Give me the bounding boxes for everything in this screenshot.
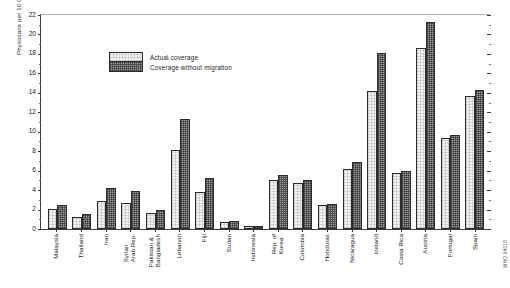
bar-group bbox=[94, 15, 119, 229]
bar-coverage-without-migration bbox=[254, 226, 264, 229]
x-tick-line bbox=[302, 229, 303, 232]
x-axis-label-text: Honduras bbox=[324, 234, 331, 261]
plot-area: Physicians per 10 000 population 0246810… bbox=[40, 14, 490, 230]
bar-group bbox=[463, 15, 488, 229]
y-tick-label: 20 bbox=[20, 30, 36, 37]
x-tick-line bbox=[204, 229, 205, 232]
bar-group bbox=[217, 15, 242, 229]
x-axis-label: Pakistan &Bangladesh bbox=[142, 232, 167, 288]
x-axis-label-text: Spain bbox=[471, 234, 478, 250]
x-tick-line bbox=[155, 229, 156, 232]
x-axis-label-text: Portugal bbox=[447, 234, 454, 258]
x-axis-label-text: Costa Rica bbox=[398, 234, 405, 265]
x-axis-label: Fiji bbox=[192, 232, 217, 288]
bar-group bbox=[45, 15, 70, 229]
y-tick-label: 16 bbox=[20, 69, 36, 76]
x-axis-label: Rep. ofKorea bbox=[265, 232, 290, 288]
bar-actual-coverage bbox=[318, 205, 328, 229]
y-tick-label: 18 bbox=[20, 49, 36, 56]
x-tick-line bbox=[179, 229, 180, 232]
x-tick-line bbox=[425, 229, 426, 232]
x-axis-label: SyrianArab Rep. bbox=[118, 232, 143, 288]
bar-group bbox=[70, 15, 95, 229]
bar-group bbox=[389, 15, 414, 229]
x-axis-labels: MalaysiaThailandIranSyrianArab Rep.Pakis… bbox=[40, 232, 490, 288]
chart-figure: Physicians per 10 000 population 0246810… bbox=[0, 0, 510, 288]
y-tick-label: 2 bbox=[20, 205, 36, 212]
x-axis-label: Spain bbox=[462, 232, 487, 288]
x-tick-line bbox=[327, 229, 328, 232]
bar-coverage-without-migration bbox=[352, 162, 362, 229]
bar-actual-coverage bbox=[269, 180, 279, 229]
x-tick-line bbox=[278, 229, 279, 232]
bar-actual-coverage bbox=[293, 183, 303, 229]
x-tick-line bbox=[253, 229, 254, 232]
bar-coverage-without-migration bbox=[450, 135, 460, 229]
x-axis-label-text: Sudan bbox=[225, 234, 232, 252]
x-axis-label-text: Colombia bbox=[299, 234, 306, 261]
x-tick-line bbox=[56, 229, 57, 232]
x-tick-line bbox=[130, 229, 131, 232]
x-axis-label: Thailand bbox=[69, 232, 94, 288]
bar-actual-coverage bbox=[97, 201, 107, 229]
bar-coverage-without-migration bbox=[327, 204, 337, 229]
bar-group bbox=[364, 15, 389, 229]
bar-coverage-without-migration bbox=[82, 214, 92, 229]
x-tick-line bbox=[450, 229, 451, 232]
x-axis-label: Nicaragua bbox=[339, 232, 364, 288]
x-axis-label-text: SyrianArab Rep. bbox=[124, 234, 137, 262]
bar-group bbox=[315, 15, 340, 229]
bar-series-container bbox=[41, 15, 490, 229]
x-axis-label-text: Indonesia bbox=[250, 234, 257, 261]
bar-actual-coverage bbox=[220, 222, 230, 229]
x-tick-line bbox=[401, 229, 402, 232]
x-axis-label: Honduras bbox=[315, 232, 340, 288]
bar-group bbox=[119, 15, 144, 229]
bar-actual-coverage bbox=[465, 96, 475, 229]
scan-header-strip bbox=[0, 0, 510, 9]
bar-coverage-without-migration bbox=[426, 22, 436, 229]
bar-group bbox=[242, 15, 267, 229]
x-axis-label-text: Iceland bbox=[373, 234, 380, 254]
y-tick-label: 4 bbox=[20, 186, 36, 193]
x-axis-label-text: Pakistan &Bangladesh bbox=[148, 234, 161, 267]
bar-actual-coverage bbox=[195, 192, 205, 229]
bar-actual-coverage bbox=[441, 138, 451, 229]
legend-swatch-actual-icon bbox=[109, 52, 143, 62]
x-axis-label: Malaysia bbox=[44, 232, 69, 288]
right-tick-line bbox=[487, 229, 490, 230]
x-tick-line bbox=[106, 229, 107, 232]
bar-coverage-without-migration bbox=[475, 90, 485, 229]
x-axis-label-text: Austria bbox=[422, 234, 429, 254]
x-axis-label: Indonesia bbox=[241, 232, 266, 288]
bar-group bbox=[340, 15, 365, 229]
bar-actual-coverage bbox=[48, 209, 58, 229]
bar-coverage-without-migration bbox=[106, 188, 116, 229]
x-axis-label-text: Nicaragua bbox=[348, 234, 355, 263]
x-axis-label-text: Fiji bbox=[201, 234, 208, 242]
x-axis-label-text: Thailand bbox=[78, 234, 85, 258]
bar-actual-coverage bbox=[146, 213, 156, 229]
y-axis-title: Physicians per 10 000 population bbox=[15, 0, 22, 55]
bar-group bbox=[192, 15, 217, 229]
bar-coverage-without-migration bbox=[377, 53, 387, 229]
bar-coverage-without-migration bbox=[278, 175, 288, 229]
y-tick-label: 10 bbox=[20, 127, 36, 134]
bar-coverage-without-migration bbox=[229, 221, 239, 229]
bar-actual-coverage bbox=[171, 150, 181, 229]
x-axis-label-text: Malaysia bbox=[53, 234, 60, 259]
y-tick-label: 22 bbox=[20, 11, 36, 18]
bar-actual-coverage bbox=[343, 169, 353, 229]
y-tick-label: 12 bbox=[20, 108, 36, 115]
x-axis-label-text: Rep. ofKorea bbox=[271, 234, 284, 254]
x-tick-line bbox=[376, 229, 377, 232]
legend-swatch-without-migration-icon bbox=[109, 62, 143, 72]
bar-group bbox=[266, 15, 291, 229]
x-tick-line bbox=[81, 229, 82, 232]
y-tick-line bbox=[38, 229, 42, 230]
bar-group bbox=[168, 15, 193, 229]
x-axis-label: Austria bbox=[413, 232, 438, 288]
x-axis-label: Colombia bbox=[290, 232, 315, 288]
x-axis-label: Sudan bbox=[216, 232, 241, 288]
y-tick-label: 0 bbox=[20, 225, 36, 232]
